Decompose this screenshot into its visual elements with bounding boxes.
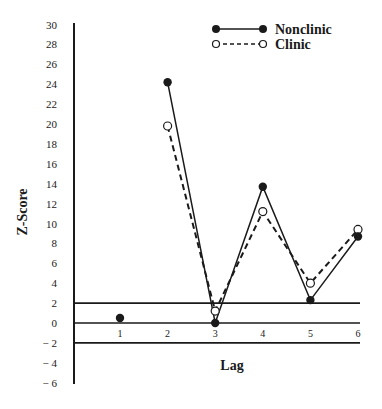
x-tick-label: 2 xyxy=(165,328,170,339)
open-circle-marker-icon xyxy=(213,41,220,48)
x-tick-label: 6 xyxy=(356,328,361,339)
y-tick-label: 26 xyxy=(46,58,58,70)
legend-item-clinic: Clinic xyxy=(213,37,311,52)
y-tick-label: 12 xyxy=(46,198,57,210)
x-tick-label: 3 xyxy=(213,328,218,339)
y-tick-label: 24 xyxy=(46,78,58,90)
y-tick-label: 6 xyxy=(52,257,58,269)
y-tick-label: − 4 xyxy=(43,357,58,369)
x-tick-label: 1 xyxy=(118,328,123,339)
filled-circle-marker-icon xyxy=(116,314,124,322)
series-line-clinic xyxy=(168,126,358,311)
series-group xyxy=(116,78,362,327)
y-tick-label: 30 xyxy=(46,19,58,31)
y-tick-label: 18 xyxy=(46,138,58,150)
y-axis-ticks: 302826242220181614121086420− 2− 4− 6 xyxy=(43,19,58,389)
y-tick-label: 28 xyxy=(46,38,58,50)
x-tick-label: 5 xyxy=(308,328,313,339)
filled-circle-marker-icon xyxy=(211,319,219,327)
filled-circle-marker-icon xyxy=(259,25,267,33)
open-circle-marker-icon xyxy=(259,208,267,216)
x-axis-ticks: 123456 xyxy=(118,328,361,339)
legend-item-nonclinic: Nonclinic xyxy=(212,22,332,37)
y-tick-label: − 2 xyxy=(43,337,57,349)
y-tick-label: 8 xyxy=(52,237,58,249)
y-tick-label: 0 xyxy=(52,317,58,329)
y-tick-label: 4 xyxy=(52,277,58,289)
y-tick-label: 20 xyxy=(46,118,58,130)
series-line-nonclinic xyxy=(168,82,358,323)
y-tick-label: 2 xyxy=(52,297,58,309)
open-circle-marker-icon xyxy=(260,41,267,48)
line-chart: 302826242220181614121086420− 2− 4− 6 123… xyxy=(0,0,382,409)
y-tick-label: 14 xyxy=(46,178,58,190)
y-tick-label: 16 xyxy=(46,158,58,170)
y-tick-label: 22 xyxy=(46,98,57,110)
filled-circle-marker-icon xyxy=(354,232,362,240)
filled-circle-marker-icon xyxy=(259,182,267,190)
open-circle-marker-icon xyxy=(306,279,314,287)
open-circle-marker-icon xyxy=(211,307,219,315)
filled-circle-marker-icon xyxy=(212,25,220,33)
x-axis-label: Lag xyxy=(220,358,243,373)
legend: Nonclinic Clinic xyxy=(212,22,332,52)
x-tick-label: 4 xyxy=(260,328,265,339)
y-tick-label: 10 xyxy=(46,218,58,230)
legend-label: Clinic xyxy=(275,37,311,52)
filled-circle-marker-icon xyxy=(306,296,314,304)
filled-circle-marker-icon xyxy=(163,78,171,86)
legend-label: Nonclinic xyxy=(275,22,332,37)
y-tick-label: − 6 xyxy=(43,377,58,389)
open-circle-marker-icon xyxy=(164,122,172,130)
y-axis-label: Z-Score xyxy=(15,188,30,235)
